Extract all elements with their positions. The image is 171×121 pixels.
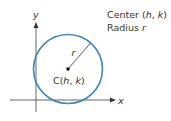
center-point <box>66 67 70 71</box>
y-axis-arrow-icon <box>34 22 39 28</box>
legend-center: Center (h, k) <box>107 9 167 22</box>
legend: Center (h, k) Radius r <box>107 9 167 34</box>
center-label: C(h, k) <box>53 75 85 86</box>
legend-radius: Radius r <box>107 22 167 35</box>
radius-label: r <box>72 47 77 58</box>
x-axis-label: x <box>117 95 124 106</box>
x-axis-arrow-icon <box>110 98 116 103</box>
y-axis-label: y <box>32 9 39 20</box>
